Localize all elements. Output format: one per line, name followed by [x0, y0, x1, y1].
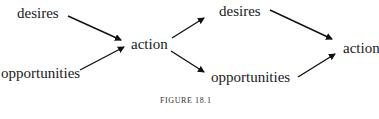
figure-caption: FIGURE 18.1 [160, 96, 212, 105]
arrow-desires-to-action-right [270, 10, 332, 39]
arrow-action-to-desires-right [172, 18, 204, 38]
arrow-opportunities-to-action-left [80, 47, 124, 70]
figure-diagram: desires opportunities action desires opp… [0, 0, 379, 119]
arrow-opportunities-to-action-right [298, 54, 335, 77]
arrow-desires-to-action-left [68, 16, 121, 40]
arrow-action-to-opportunities-right [171, 51, 204, 72]
